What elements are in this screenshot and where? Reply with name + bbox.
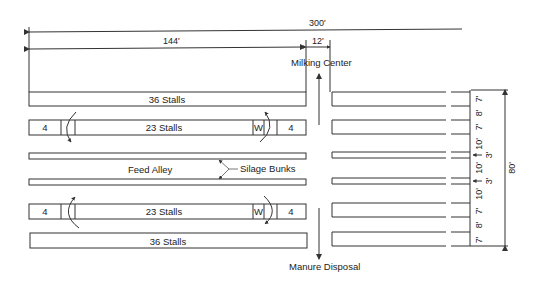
svg-text:7': 7': [474, 95, 484, 102]
stall-count: 23 Stalls: [146, 206, 183, 217]
manure-disposal-label: Manure Disposal: [289, 261, 360, 272]
silage-bunks-label: Silage Bunks: [240, 163, 296, 174]
svg-text:8': 8': [474, 221, 484, 228]
svg-text:10': 10': [474, 138, 484, 150]
svg-text:7': 7': [474, 236, 484, 243]
svg-text:7': 7': [474, 123, 484, 130]
upper-middle-stall-row: 4 23 Stalls W 4: [29, 112, 306, 142]
end-pen-left: 4: [42, 206, 47, 217]
barn-diagram: 300' 144' 12' Milking Center Manure Disp…: [0, 0, 541, 286]
lower-middle-stall-row: 4 23 Stalls W 4: [29, 196, 306, 228]
milking-gap-label: 12': [312, 36, 324, 46]
end-pen-right: 4: [288, 206, 293, 217]
top-stall-row: 36 Stalls: [29, 92, 306, 106]
stall-count: 23 Stalls: [146, 122, 183, 133]
silage-bunk-upper: [29, 153, 306, 159]
svg-text:3': 3': [484, 177, 494, 184]
barn-length-label: 144': [163, 36, 180, 46]
svg-text:10': 10': [474, 188, 484, 200]
width-dimension-chain: 7' 8' 7' 10' 3' 10' 3' 10' 7' 8' 7': [470, 90, 494, 246]
overall-length-label: 300': [309, 18, 326, 28]
overall-width-dimension: 80': [505, 90, 517, 246]
waterer: W: [254, 206, 263, 217]
feed-alley-label: Feed Alley: [128, 164, 173, 175]
overall-length-dimension: 300': [29, 18, 462, 32]
end-pen-right: 4: [288, 122, 293, 133]
silage-bunk-lower: [29, 179, 306, 185]
silage-bunks-callout: Silage Bunks: [219, 160, 296, 179]
milking-center-label: Milking Center: [291, 57, 352, 68]
bottom-stall-row: 36 Stalls: [30, 233, 307, 248]
waterer: W: [254, 122, 263, 133]
barn-length-dimension: 144': [29, 36, 305, 49]
end-pen-left: 4: [42, 122, 47, 133]
svg-text:36 Stalls: 36 Stalls: [149, 94, 186, 105]
svg-text:8': 8': [474, 109, 484, 116]
svg-text:36 Stalls: 36 Stalls: [150, 236, 187, 247]
svg-text:3': 3': [484, 151, 494, 158]
svg-text:7': 7': [474, 207, 484, 214]
svg-text:80': 80': [507, 162, 517, 174]
svg-text:10': 10': [474, 162, 484, 174]
